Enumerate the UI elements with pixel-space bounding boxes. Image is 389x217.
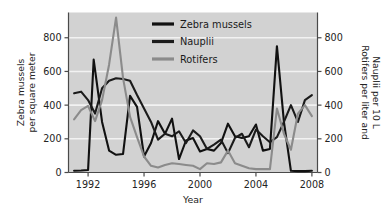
x-tick-label: 2000: [188, 179, 212, 190]
legend-label: Zebra mussels: [180, 19, 252, 30]
x-tick-label: 2004: [244, 179, 268, 190]
y2-tick-label: 0: [325, 167, 331, 178]
svg-text:Nauplii per 10 L: Nauplii per 10 L: [371, 56, 382, 130]
y2-tick-label: 800: [325, 32, 343, 43]
svg-text:Rotifers per liter and: Rotifers per liter and: [360, 45, 371, 140]
y-axis-title: Zebra musselsper square meter: [15, 52, 37, 132]
chart-figure: 0200400600800020040060080019921996200020…: [0, 0, 389, 217]
x-tick-label: 1996: [132, 179, 156, 190]
x-tick-label: 1992: [76, 179, 100, 190]
x-axis-title: Year: [182, 194, 203, 205]
y2-tick-label: 200: [325, 133, 343, 144]
y2-axis-title: Rotifers per liter andNauplii per 10 L: [360, 45, 382, 140]
legend-label: Rotifers: [180, 54, 218, 65]
line-chart: 0200400600800020040060080019921996200020…: [0, 0, 389, 217]
svg-text:Zebra mussels: Zebra mussels: [15, 59, 26, 127]
legend-label: Nauplii: [180, 36, 214, 47]
y-tick-label: 0: [55, 167, 61, 178]
y-tick-label: 200: [43, 133, 61, 144]
x-tick-label: 2008: [300, 179, 324, 190]
y2-tick-label: 400: [325, 100, 343, 111]
svg-text:per square meter: per square meter: [26, 52, 37, 132]
y-tick-label: 800: [43, 32, 61, 43]
y-tick-label: 600: [43, 66, 61, 77]
y-tick-label: 400: [43, 100, 61, 111]
y2-tick-label: 600: [325, 66, 343, 77]
